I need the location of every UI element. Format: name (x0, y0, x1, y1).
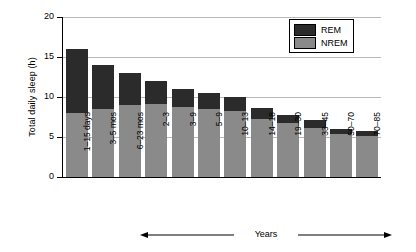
bar-segment-rem (198, 93, 220, 109)
x-axis-label-8: 19–30 (294, 112, 303, 182)
y-tick-label-0: 0 (28, 172, 54, 181)
bar-segment-rem (224, 97, 246, 111)
legend-swatch-nrem (294, 37, 316, 49)
x-axis-label-4: 3–9 (189, 112, 198, 182)
legend-label-nrem: NREM (321, 38, 348, 48)
legend-item-nrem: NREM (294, 36, 348, 49)
bar-segment-rem (92, 65, 114, 109)
x-axis-label-6: 10–13 (241, 112, 250, 182)
gridline-15 (63, 57, 381, 58)
x-axis-label-1: 3–5 mos (109, 112, 118, 182)
sleep-stacked-bar-chart: Total daily sleep (h) 05101520 1–15 days… (0, 0, 416, 252)
x-axis-label-3: 2–3 (162, 112, 171, 182)
years-label: Years (234, 228, 298, 240)
bar-segment-rem (145, 81, 167, 104)
gridline-20 (63, 17, 381, 18)
x-axis-label-2: 6–23 mos (136, 112, 145, 182)
y-tick-mark-0 (57, 177, 63, 178)
x-axis-label-9: 33–45 (321, 112, 330, 182)
x-axis-label-0: 1–15 days (83, 112, 92, 182)
y-tick-label-15: 15 (28, 52, 54, 61)
legend-label-rem: REM (321, 25, 341, 35)
legend-item-rem: REM (294, 23, 348, 36)
bar-segment-rem (172, 89, 194, 107)
y-tick-label-10: 10 (28, 92, 54, 101)
y-tick-label-20: 20 (28, 12, 54, 21)
legend-swatch-rem (294, 24, 316, 36)
chart-legend: REMNREM (289, 19, 354, 53)
x-axis-label-11: 70–85 (373, 112, 382, 182)
x-axis-label-7: 14–18 (268, 112, 277, 182)
bar-segment-rem (119, 73, 141, 105)
x-axis-label-10: 50–70 (347, 112, 356, 182)
x-axis-label-5: 5–9 (215, 112, 224, 182)
y-tick-label-5: 5 (28, 132, 54, 141)
bar-segment-rem (66, 49, 88, 113)
years-annotation: Years (140, 228, 392, 242)
